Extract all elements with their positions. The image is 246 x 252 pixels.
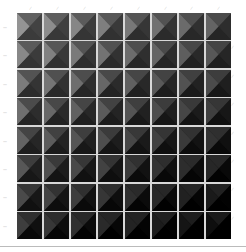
row-label: — <box>3 82 7 87</box>
grid-tile <box>125 184 150 211</box>
grid-tile <box>179 155 204 182</box>
grid-tile <box>179 184 204 211</box>
grid-tile <box>206 13 231 40</box>
row-label: — <box>3 25 7 30</box>
grid-tile <box>125 212 150 239</box>
grid-tile <box>206 212 231 239</box>
grid-tile <box>125 13 150 40</box>
grid-tile <box>71 212 96 239</box>
grid-tile <box>17 41 42 68</box>
grid-tile <box>71 13 96 40</box>
grid-tile <box>98 184 123 211</box>
row-label: — <box>3 110 7 115</box>
grid-tile <box>71 98 96 125</box>
tile-grid <box>17 13 231 239</box>
grid-tile <box>17 98 42 125</box>
grid-tile <box>206 98 231 125</box>
grid-tile <box>206 70 231 97</box>
grid-tile <box>71 70 96 97</box>
grid-tile <box>17 127 42 154</box>
grid-tile <box>98 212 123 239</box>
grid-tile <box>179 127 204 154</box>
grid-tile <box>44 212 69 239</box>
column-label: — <box>27 5 33 11</box>
grid-tile <box>17 184 42 211</box>
grid-tile <box>125 70 150 97</box>
grid-tile <box>152 41 177 68</box>
column-label: — <box>134 5 140 11</box>
grid-tile <box>125 127 150 154</box>
column-label: — <box>215 5 221 11</box>
grid-tile <box>206 41 231 68</box>
column-label: — <box>81 5 87 11</box>
grid-tile <box>71 155 96 182</box>
grid-tile <box>98 127 123 154</box>
grid-tile <box>152 98 177 125</box>
baseline-divider <box>0 246 246 247</box>
grid-tile <box>17 155 42 182</box>
grid-tile <box>152 212 177 239</box>
grid-tile <box>71 184 96 211</box>
grid-tile <box>152 155 177 182</box>
row-label: — <box>3 53 7 58</box>
grid-tile <box>98 41 123 68</box>
column-label: — <box>108 5 114 11</box>
column-label: — <box>54 5 60 11</box>
grid-tile <box>17 13 42 40</box>
row-label: — <box>3 224 7 229</box>
grid-tile <box>206 184 231 211</box>
grid-tile <box>17 212 42 239</box>
grid-tile <box>44 70 69 97</box>
grid-tile <box>179 98 204 125</box>
grid-tile <box>44 127 69 154</box>
row-label: — <box>3 139 7 144</box>
grid-tile <box>98 155 123 182</box>
grid-tile <box>44 13 69 40</box>
grid-tile <box>206 127 231 154</box>
grid-tile <box>206 155 231 182</box>
grid-tile <box>152 13 177 40</box>
grid-tile <box>179 41 204 68</box>
grid-tile <box>44 41 69 68</box>
row-label: — <box>3 167 7 172</box>
grid-tile <box>71 41 96 68</box>
grid-tile <box>98 13 123 40</box>
grid-tile <box>98 70 123 97</box>
column-label: — <box>188 5 194 11</box>
grid-tile <box>125 41 150 68</box>
grid-tile <box>44 98 69 125</box>
grid-tile <box>44 184 69 211</box>
grid-tile <box>152 184 177 211</box>
grid-tile <box>98 98 123 125</box>
grid-tile <box>17 70 42 97</box>
grid-tile <box>152 70 177 97</box>
grid-tile <box>152 127 177 154</box>
grid-tile <box>179 212 204 239</box>
grid-tile <box>125 155 150 182</box>
grid-tile <box>125 98 150 125</box>
grid-tile <box>44 155 69 182</box>
column-label: — <box>161 5 167 11</box>
grid-tile <box>71 127 96 154</box>
row-label: — <box>3 195 7 200</box>
grid-tile <box>179 70 204 97</box>
grid-tile <box>179 13 204 40</box>
